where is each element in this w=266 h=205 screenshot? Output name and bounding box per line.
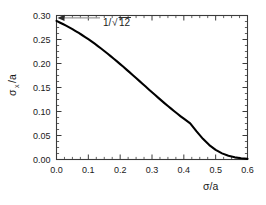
y-tick-label: 0.30 — [33, 11, 51, 21]
x-tick-label: 0.0 — [50, 165, 63, 175]
y-axis-title-subscript: x — [13, 84, 20, 88]
x-tick-label: 0.3 — [146, 165, 159, 175]
y-tick-label: 0.00 — [33, 155, 51, 165]
x-axis-title-text: σ/a — [203, 180, 218, 192]
x-axis-title: σ/a — [203, 180, 218, 192]
y-tick-label: 0.20 — [33, 59, 51, 69]
annotation-label-radical: √ — [112, 17, 118, 28]
x-tick-label: 0.6 — [241, 165, 254, 175]
chart-canvas: 0.00.10.20.30.40.50.6 0.000.050.100.150.… — [0, 0, 266, 205]
chart-figure: 0.00.10.20.30.40.50.6 0.000.050.100.150.… — [0, 0, 266, 205]
y-tick-label: 0.15 — [33, 83, 51, 93]
x-tick-label: 0.4 — [178, 165, 191, 175]
annotation-label-radicand: 12 — [119, 17, 131, 28]
y-tick-label: 0.25 — [33, 35, 51, 45]
x-tick-label: 0.5 — [209, 165, 222, 175]
annotation-label: 1/ √ 12 — [103, 17, 131, 28]
annotation-label-prefix: 1/ — [103, 17, 112, 28]
y-tick-label: 0.05 — [33, 131, 51, 141]
y-axis-title-tail: /a — [6, 74, 18, 83]
chart-background — [0, 0, 266, 205]
y-tick-label: 0.10 — [33, 107, 51, 117]
x-tick-label: 0.2 — [114, 165, 127, 175]
y-axis-title-base: σ — [6, 89, 18, 96]
x-tick-label: 0.1 — [82, 165, 95, 175]
